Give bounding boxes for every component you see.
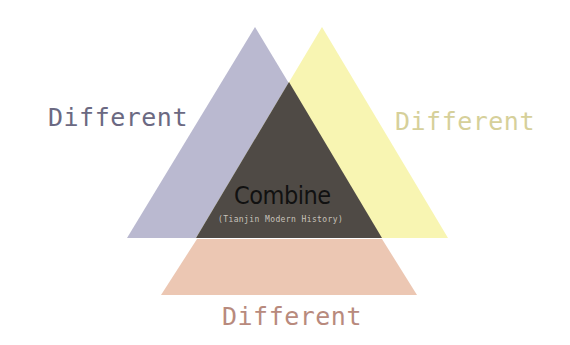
diagram-canvas: Different Different Different Combine (T… <box>0 0 570 345</box>
left-label: Different <box>48 105 188 130</box>
center-subtitle: (Tianjin Modern History) <box>218 216 343 224</box>
bottom-trapezoid <box>161 239 417 295</box>
triangle-diagram <box>0 0 570 345</box>
center-label: Combine <box>234 183 331 208</box>
right-label: Different <box>395 109 535 134</box>
bottom-label: Different <box>222 304 362 329</box>
